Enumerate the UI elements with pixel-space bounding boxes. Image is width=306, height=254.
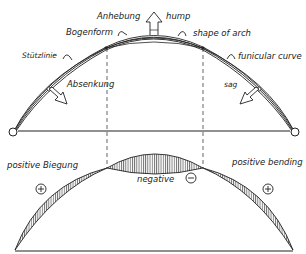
plus-symbol-right bbox=[263, 184, 273, 194]
label-absenkung: Absenkung bbox=[66, 79, 115, 89]
pointer-arrow-icon-stuetzlinie bbox=[63, 55, 72, 60]
label-positive-bending: positive bending bbox=[231, 157, 303, 167]
pointer-arrow-icon-funicular bbox=[227, 55, 235, 59]
minus-symbol-center bbox=[186, 173, 196, 183]
bending-area-positive-left bbox=[15, 168, 107, 250]
support-left bbox=[9, 128, 17, 136]
label-positive-biegung: positive Biegung bbox=[6, 160, 79, 170]
bending-area-negative-center bbox=[107, 154, 203, 174]
label-bogenform: Bogenform bbox=[66, 27, 113, 37]
label-anhebung: Anhebung bbox=[96, 11, 141, 21]
sag-arrow-icon bbox=[240, 87, 261, 104]
arch-shape-line-1 bbox=[14, 36, 294, 132]
upper-arch-diagram: Anhebung hump Bogenform shape of arch St… bbox=[9, 11, 302, 168]
hump-arrow-icon bbox=[146, 12, 162, 35]
label-shape-of-arch: shape of arch bbox=[193, 28, 251, 38]
label-hump: hump bbox=[166, 11, 190, 21]
pointer-arrow-icon-bogenform bbox=[118, 32, 127, 36]
support-right bbox=[291, 128, 299, 136]
pointer-arrow-icon-shape-of-arch bbox=[178, 32, 186, 36]
plus-symbol-left bbox=[36, 184, 46, 194]
label-funicular-curve: funicular curve bbox=[238, 51, 302, 61]
label-negative: negative bbox=[137, 174, 174, 184]
arch-diagram: Anhebung hump Bogenform shape of arch St… bbox=[0, 0, 306, 254]
bending-area-positive-right bbox=[203, 168, 293, 250]
label-sag: sag bbox=[224, 80, 238, 89]
absenkung-arrow-icon bbox=[47, 87, 67, 104]
label-stuetzlinie: Stützlinie bbox=[22, 51, 57, 60]
lower-bending-diagram: positive Biegung positive bending negati… bbox=[6, 154, 303, 251]
